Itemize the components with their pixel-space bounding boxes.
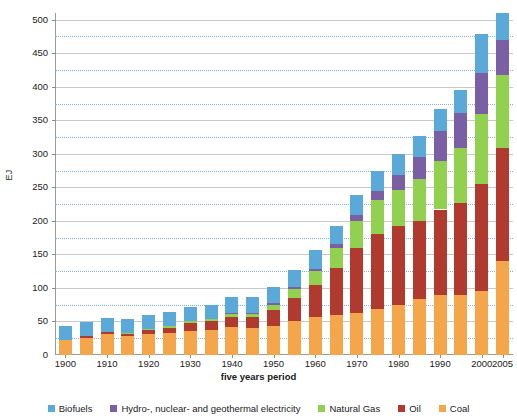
bar-segment[interactable] bbox=[225, 314, 238, 317]
bar-segment[interactable] bbox=[205, 321, 218, 329]
bar-segment[interactable] bbox=[225, 297, 238, 313]
bar[interactable] bbox=[59, 326, 72, 355]
bar-segment[interactable] bbox=[142, 330, 155, 334]
bar-segment[interactable] bbox=[80, 338, 93, 355]
bar[interactable] bbox=[142, 315, 155, 355]
bar[interactable] bbox=[475, 34, 488, 355]
bar-segment[interactable] bbox=[59, 326, 72, 339]
bar[interactable] bbox=[163, 312, 176, 355]
bar-segment[interactable] bbox=[434, 131, 447, 161]
bar-segment[interactable] bbox=[392, 305, 405, 355]
bar-segment[interactable] bbox=[205, 319, 218, 321]
bar-segment[interactable] bbox=[267, 326, 280, 356]
bar-segment[interactable] bbox=[288, 321, 301, 355]
bar-segment[interactable] bbox=[101, 318, 114, 332]
bar-segment[interactable] bbox=[454, 295, 467, 355]
bar-segment[interactable] bbox=[101, 332, 114, 334]
bar-segment[interactable] bbox=[392, 175, 405, 190]
legend-item[interactable]: Coal bbox=[439, 403, 470, 414]
bar-segment[interactable] bbox=[309, 285, 322, 317]
bar-segment[interactable] bbox=[475, 73, 488, 113]
bar[interactable] bbox=[205, 305, 218, 355]
bar-segment[interactable] bbox=[496, 75, 509, 149]
bar-segment[interactable] bbox=[496, 261, 509, 355]
legend-item[interactable]: Natural Gas bbox=[318, 403, 380, 414]
bar-segment[interactable] bbox=[413, 157, 426, 178]
bar[interactable] bbox=[371, 171, 384, 355]
bar-segment[interactable] bbox=[350, 195, 363, 214]
bar-segment[interactable] bbox=[101, 334, 114, 355]
bar-segment[interactable] bbox=[454, 90, 467, 113]
bar-segment[interactable] bbox=[225, 317, 238, 327]
bar-segment[interactable] bbox=[434, 295, 447, 355]
legend-item[interactable]: Oil bbox=[398, 403, 421, 414]
bar[interactable] bbox=[413, 136, 426, 355]
bar[interactable] bbox=[434, 109, 447, 355]
bar-segment[interactable] bbox=[496, 148, 509, 261]
bar[interactable] bbox=[309, 250, 322, 355]
bar-segment[interactable] bbox=[163, 326, 176, 327]
bar-segment[interactable] bbox=[267, 310, 280, 325]
bar-segment[interactable] bbox=[413, 221, 426, 299]
bar-segment[interactable] bbox=[163, 328, 176, 333]
bar[interactable] bbox=[80, 322, 93, 355]
bar-segment[interactable] bbox=[59, 340, 72, 355]
bar-segment[interactable] bbox=[288, 270, 301, 287]
bar-segment[interactable] bbox=[475, 114, 488, 184]
bar-segment[interactable] bbox=[163, 312, 176, 326]
bar-segment[interactable] bbox=[350, 248, 363, 313]
bar[interactable] bbox=[184, 307, 197, 355]
bar-segment[interactable] bbox=[184, 323, 197, 330]
bar-segment[interactable] bbox=[121, 334, 134, 337]
bar[interactable] bbox=[101, 318, 114, 355]
bar-segment[interactable] bbox=[371, 200, 384, 234]
bar-segment[interactable] bbox=[475, 291, 488, 355]
legend-item[interactable]: Hydro-, nuclear- and geothermal electric… bbox=[110, 403, 300, 414]
bar-segment[interactable] bbox=[309, 250, 322, 268]
bar-segment[interactable] bbox=[496, 40, 509, 75]
bar-segment[interactable] bbox=[184, 307, 197, 321]
bar-segment[interactable] bbox=[246, 314, 259, 317]
bar-segment[interactable] bbox=[350, 221, 363, 248]
bar-segment[interactable] bbox=[121, 336, 134, 355]
bar[interactable] bbox=[350, 195, 363, 355]
bar-segment[interactable] bbox=[288, 287, 301, 289]
bar-segment[interactable] bbox=[184, 331, 197, 355]
bar[interactable] bbox=[288, 270, 301, 355]
bar-segment[interactable] bbox=[454, 203, 467, 295]
bar-segment[interactable] bbox=[288, 289, 301, 298]
bar-segment[interactable] bbox=[496, 13, 509, 40]
bar-segment[interactable] bbox=[454, 113, 467, 148]
bar-segment[interactable] bbox=[163, 333, 176, 355]
bar-segment[interactable] bbox=[434, 161, 447, 209]
bar-segment[interactable] bbox=[371, 191, 384, 200]
bar-segment[interactable] bbox=[371, 171, 384, 191]
bar-segment[interactable] bbox=[413, 179, 426, 221]
bar-segment[interactable] bbox=[413, 136, 426, 157]
bar-segment[interactable] bbox=[246, 317, 259, 328]
bar-segment[interactable] bbox=[80, 322, 93, 336]
bar-segment[interactable] bbox=[371, 309, 384, 355]
bar-segment[interactable] bbox=[330, 248, 343, 267]
bar[interactable] bbox=[246, 297, 259, 355]
bar-segment[interactable] bbox=[434, 109, 447, 131]
bar[interactable] bbox=[496, 13, 509, 355]
bar-segment[interactable] bbox=[350, 313, 363, 355]
bar-segment[interactable] bbox=[288, 298, 301, 321]
bar-segment[interactable] bbox=[205, 305, 218, 319]
bar-segment[interactable] bbox=[434, 210, 447, 295]
bar-segment[interactable] bbox=[80, 336, 93, 337]
bar-segment[interactable] bbox=[392, 190, 405, 226]
bar-segment[interactable] bbox=[413, 299, 426, 355]
bar-segment[interactable] bbox=[475, 34, 488, 73]
bar-segment[interactable] bbox=[330, 315, 343, 355]
legend-item[interactable]: Biofuels bbox=[48, 403, 93, 414]
bar-segment[interactable] bbox=[454, 148, 467, 203]
bar-segment[interactable] bbox=[184, 321, 197, 323]
bar-segment[interactable] bbox=[267, 303, 280, 304]
bar[interactable] bbox=[454, 90, 467, 355]
bar-segment[interactable] bbox=[142, 315, 155, 329]
bar[interactable] bbox=[225, 297, 238, 355]
bar-segment[interactable] bbox=[142, 334, 155, 355]
bar-segment[interactable] bbox=[246, 297, 259, 313]
